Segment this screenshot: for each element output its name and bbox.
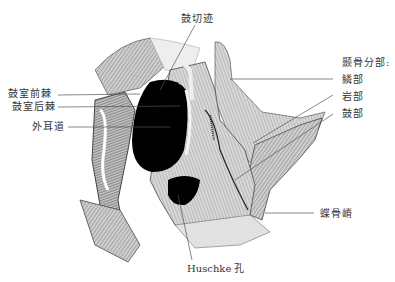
temporal-bone-illustration <box>0 0 395 282</box>
label-tympanic-part: 鼓部 <box>342 108 364 120</box>
label-external-acoustic-meatus: 外耳道 <box>32 121 65 133</box>
label-tympanic-notch: 鼓切迹 <box>181 13 214 25</box>
label-anterior-tympanic-spine: 鼓室前棘 <box>8 88 52 100</box>
label-sphenoid-spine: 蝶骨嵴 <box>320 208 353 220</box>
label-temporal-parts-heading: 颞骨分部: <box>342 57 390 69</box>
label-petrous-part: 岩部 <box>342 91 364 103</box>
label-squamous-part: 鳞部 <box>342 74 364 86</box>
anatomy-figure: 鼓切迹 鼓室前棘 鼓室后棘 外耳道 颞骨分部: 鳞部 岩部 鼓部 蝶骨嵴 Hus… <box>0 0 395 282</box>
label-posterior-tympanic-spine: 鼓室后棘 <box>12 101 56 113</box>
label-huschke-foramen: Huschke 孔 <box>187 263 245 275</box>
external-acoustic-meatus-cavity <box>132 80 188 172</box>
